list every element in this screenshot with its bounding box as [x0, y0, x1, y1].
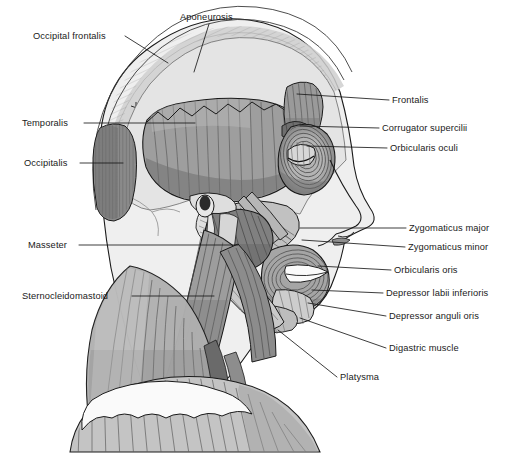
- leader-depressor-anguli-oris: [308, 303, 386, 316]
- leader-digastric-muscle: [300, 318, 386, 348]
- anatomy-figure: Occipital frontalis Temporalis Occipital…: [0, 0, 510, 466]
- label-temporalis: Temporalis: [22, 118, 68, 128]
- leader-platysma: [278, 330, 337, 377]
- nostril: [332, 238, 350, 245]
- label-depressor-labii-inferioris: Depressor labii inferioris: [386, 288, 488, 298]
- label-depressor-anguli-oris: Depressor anguli oris: [389, 311, 479, 321]
- label-zygomaticus-minor: Zygomaticus minor: [408, 242, 488, 252]
- label-zygomaticus-major: Zygomaticus major: [409, 223, 489, 233]
- anatomy-illustration: [0, 0, 510, 466]
- label-occipitalis: Occipitalis: [24, 158, 67, 168]
- label-orbicularis-oculi: Orbicularis oculi: [390, 143, 458, 153]
- label-orbicularis-oris: Orbicularis oris: [394, 265, 458, 275]
- label-frontalis: Frontalis: [392, 95, 429, 105]
- label-masseter: Masseter: [28, 240, 67, 250]
- label-corrugator-supercilii: Corrugator supercilii: [382, 123, 467, 133]
- label-digastric-muscle: Digastric muscle: [389, 343, 459, 353]
- label-aponeurosis: Aponeurosis: [180, 12, 233, 22]
- label-occipital-frontalis: Occipital frontalis: [33, 31, 106, 41]
- external-auditory-meatus: [200, 196, 211, 211]
- label-sternocleidomastoid: Sternocleidomastoid: [22, 291, 108, 301]
- label-platysma: Platysma: [340, 372, 379, 382]
